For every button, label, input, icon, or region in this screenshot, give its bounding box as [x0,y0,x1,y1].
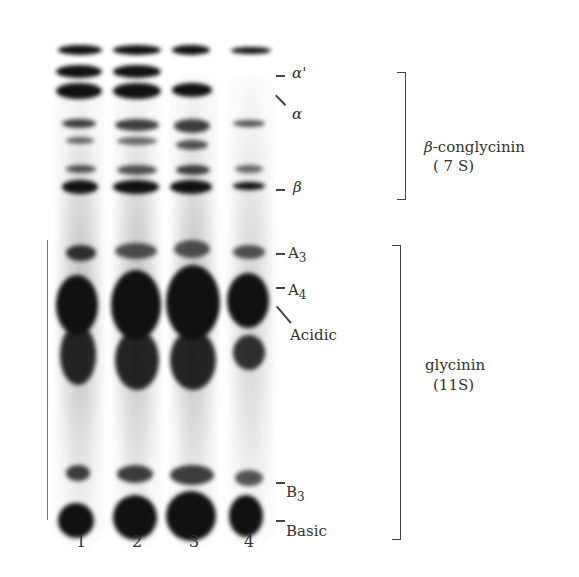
bracket-conglycinin [397,72,406,200]
tick-basic [276,520,285,522]
gel-edge-line [47,240,48,520]
label-glycinin: glycinin [425,356,485,374]
bracket-glycinin [392,245,401,540]
label-a4: A4 [288,281,306,302]
label-acidic: Acidic [290,326,337,344]
label-alpha: α [292,105,302,123]
lane-number-2: 2 [132,532,142,551]
label-beta: β [293,178,302,196]
lane-number-4: 4 [244,532,254,551]
lane-number-3: 3 [189,532,199,551]
label-conglycinin-7s: ( 7 S) [433,157,474,175]
tick-beta [276,189,285,191]
gel-lane-2 [107,25,167,545]
tick-alpha-prime [276,75,285,77]
tick-a4 [276,287,285,289]
tick-b3 [276,482,285,484]
gel-lane-1 [50,25,110,545]
label-conglycinin: β-conglycinin [424,138,525,156]
gel-lane-3 [164,25,224,545]
gel-image [45,25,280,550]
label-basic: Basic [286,522,327,540]
label-glycinin-11s: (11S) [433,376,474,394]
label-alpha-prime: α' [292,64,306,82]
label-b3: B3 [286,483,305,504]
label-a3: A3 [288,244,306,265]
tick-a3 [276,253,285,255]
lane-number-1: 1 [76,532,86,551]
gel-lane-4 [221,25,281,545]
